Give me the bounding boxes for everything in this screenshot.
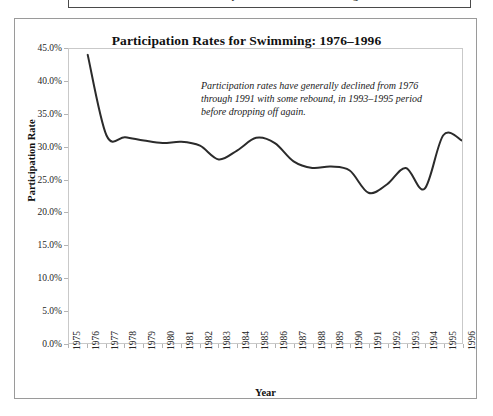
x-tick-mark xyxy=(388,344,389,348)
y-axis-title: Participation Rate xyxy=(26,101,37,221)
y-tick-label: 5.0% xyxy=(16,306,62,316)
x-tick-mark xyxy=(444,344,445,348)
exhibit-caption-bar: Exhibit 4.13 Line Chart of Participation… xyxy=(68,0,471,8)
y-tick-label: 20.0% xyxy=(16,207,62,217)
y-tick-mark xyxy=(64,344,68,345)
chart-figure-frame: Participation Rates for Swimming: 1976–1… xyxy=(14,18,477,399)
x-tick-mark xyxy=(313,344,314,348)
x-tick-mark xyxy=(237,344,238,348)
x-tick-mark xyxy=(331,344,332,348)
plot-wrapper: 0.0%5.0%10.0%15.0%20.0%25.0%30.0%35.0%40… xyxy=(15,19,478,400)
chart-annotation: Participation rates have generally decli… xyxy=(201,79,453,119)
x-tick-mark xyxy=(87,344,88,348)
x-tick-label: 1996 xyxy=(467,331,477,350)
x-tick-mark xyxy=(68,344,69,348)
annotation-line: through 1991 with some rebound, in 1993–… xyxy=(201,92,453,105)
y-tick-label: 35.0% xyxy=(16,109,62,119)
x-tick-mark xyxy=(275,344,276,348)
annotation-line: before dropping off again. xyxy=(201,105,453,118)
y-tick-label: 0.0% xyxy=(16,339,62,349)
x-tick-mark xyxy=(143,344,144,348)
x-tick-mark xyxy=(200,344,201,348)
x-tick-mark xyxy=(463,344,464,348)
x-tick-mark xyxy=(256,344,257,348)
x-tick-mark xyxy=(162,344,163,348)
annotation-line: Participation rates have generally decli… xyxy=(201,79,453,92)
x-tick-mark xyxy=(425,344,426,348)
y-tick-label: 30.0% xyxy=(16,142,62,152)
x-tick-mark xyxy=(407,344,408,348)
x-tick-mark xyxy=(294,344,295,348)
x-tick-mark xyxy=(369,344,370,348)
y-tick-label: 10.0% xyxy=(16,273,62,283)
y-tick-label: 15.0% xyxy=(16,240,62,250)
series-path-swimming xyxy=(88,55,462,193)
y-tick-label: 45.0% xyxy=(16,43,62,53)
x-tick-mark xyxy=(181,344,182,348)
x-tick-mark xyxy=(218,344,219,348)
y-tick-label: 40.0% xyxy=(16,76,62,86)
x-tick-mark xyxy=(106,344,107,348)
y-tick-label: 25.0% xyxy=(16,175,62,185)
x-tick-mark xyxy=(124,344,125,348)
x-axis-title: Year xyxy=(68,387,463,398)
x-tick-mark xyxy=(350,344,351,348)
